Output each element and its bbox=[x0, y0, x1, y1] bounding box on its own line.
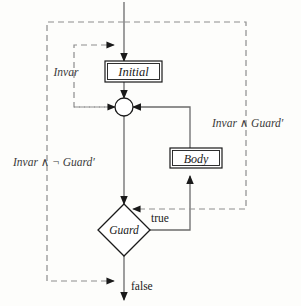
node-guard-label: Guard bbox=[109, 224, 139, 236]
node-merge-circle-shape bbox=[115, 98, 133, 116]
node-initial-label: Initial bbox=[117, 65, 149, 79]
annotation-invar-and-not-guard-prime: Invar ∧ ¬ Guard′ bbox=[12, 156, 95, 168]
annotation-invar-and-guard-prime: Invar ∧ Guard′ bbox=[211, 117, 284, 129]
node-initial[interactable]: Initial bbox=[105, 61, 162, 82]
node-merge-circle[interactable] bbox=[115, 98, 133, 116]
edge-label-false: false bbox=[131, 280, 153, 292]
dashed-edge-invar-and-guard bbox=[124, 22, 246, 209]
flowchart-diagram: Initial Body Guard true false Invar Inva… bbox=[0, 0, 301, 306]
node-guard[interactable]: Guard bbox=[98, 204, 150, 256]
edge-label-true: true bbox=[151, 212, 169, 224]
annotation-invar-initial: Invar bbox=[53, 66, 79, 78]
node-body-label: Body bbox=[184, 152, 209, 166]
diagram-canvas: Initial Body Guard true false Invar Inva… bbox=[0, 0, 301, 306]
edge-body-to-merge bbox=[133, 107, 190, 148]
node-body[interactable]: Body bbox=[170, 148, 222, 168]
